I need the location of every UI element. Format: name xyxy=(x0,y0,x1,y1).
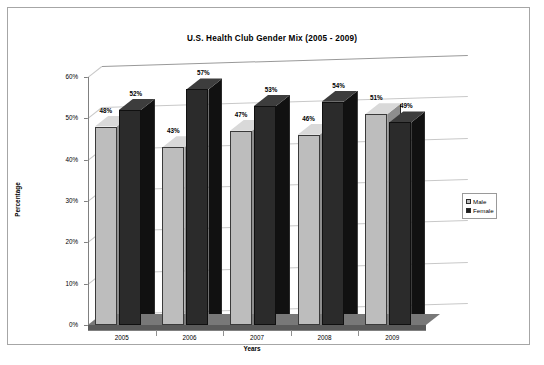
bar-side-panel xyxy=(344,91,358,314)
y-axis-tick-label: 10% xyxy=(52,280,78,287)
legend-item-male: Male xyxy=(466,197,493,206)
y-axis-tick-label: 0% xyxy=(52,321,78,328)
data-label-male-2007: 47% xyxy=(224,111,258,118)
x-axis-tick xyxy=(156,330,157,336)
y-axis-tick-label: 20% xyxy=(52,238,78,245)
x-axis-tick xyxy=(358,330,359,336)
y-axis-tick-label: 60% xyxy=(52,73,78,80)
bar-female-2009 xyxy=(389,122,411,325)
data-label-male-2009: 51% xyxy=(359,94,393,101)
bar-female-2005 xyxy=(119,110,141,325)
y-axis-tick-label: 30% xyxy=(52,197,78,204)
legend-label-female: Female xyxy=(473,206,494,215)
bar-front-face xyxy=(95,127,117,325)
data-label-male-2008: 46% xyxy=(292,115,326,122)
x-axis-line xyxy=(88,330,426,331)
data-label-female-2005: 52% xyxy=(119,90,153,97)
x-axis-tick-label-2008: 2008 xyxy=(290,334,360,341)
bar-male-2008 xyxy=(298,135,320,325)
x-axis-tick-label-2007: 2007 xyxy=(222,334,292,341)
data-label-female-2007: 53% xyxy=(254,86,288,93)
bar-front-face xyxy=(162,147,184,325)
bar-front-face xyxy=(322,102,344,325)
bar-front-face xyxy=(119,110,141,325)
x-axis-tick xyxy=(291,330,292,336)
x-axis-tick-label-2009: 2009 xyxy=(357,334,427,341)
data-label-female-2008: 54% xyxy=(322,82,356,89)
x-axis-tick-label-2006: 2006 xyxy=(154,334,224,341)
chart-title: U.S. Health Club Gender Mix (2005 - 2009… xyxy=(0,34,544,43)
bar-male-2007 xyxy=(230,131,252,325)
data-label-male-2006: 43% xyxy=(156,127,190,134)
bar-side-panel xyxy=(276,95,290,314)
y-axis-title: Percentage xyxy=(14,165,21,235)
bar-front-face xyxy=(254,106,276,325)
x-axis-tick-label-2005: 2005 xyxy=(87,334,157,341)
bar-male-2006 xyxy=(162,147,184,325)
x-axis-title: Years xyxy=(0,345,504,352)
bar-front-face xyxy=(230,131,252,325)
y-axis-tick-label: 50% xyxy=(52,114,78,121)
bar-front-face xyxy=(365,114,387,325)
bar-female-2006 xyxy=(186,89,208,325)
y-axis-tick-label: 40% xyxy=(52,156,78,163)
data-label-female-2009: 49% xyxy=(389,102,423,109)
x-axis-tick xyxy=(223,330,224,336)
bar-female-2007 xyxy=(254,106,276,325)
bar-side-panel xyxy=(208,78,222,314)
legend-swatch-male xyxy=(466,199,471,204)
legend-item-female: Female xyxy=(466,206,493,215)
y-axis-line xyxy=(88,77,89,325)
bar-male-2009 xyxy=(365,114,387,325)
bar-front-face xyxy=(298,135,320,325)
bar-front-face xyxy=(186,89,208,325)
bar-side-panel xyxy=(411,111,425,314)
chart-legend: Male Female xyxy=(462,193,497,219)
chart-canvas: U.S. Health Club Gender Mix (2005 - 2009… xyxy=(0,0,544,365)
data-label-female-2006: 57% xyxy=(186,69,220,76)
data-label-male-2005: 48% xyxy=(89,107,123,114)
bar-side-panel xyxy=(141,99,155,314)
bar-front-face xyxy=(389,122,411,325)
bar-male-2005 xyxy=(95,127,117,325)
legend-swatch-female xyxy=(466,208,471,213)
legend-label-male: Male xyxy=(473,197,486,206)
bar-female-2008 xyxy=(322,102,344,325)
